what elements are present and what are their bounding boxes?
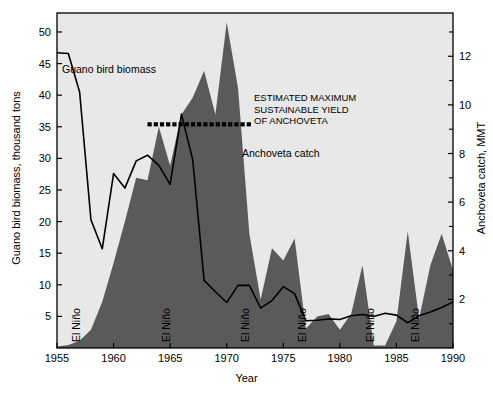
msy-reference-line — [148, 122, 251, 126]
el-nino-label: El Niño — [160, 308, 172, 342]
x-tick-label: 1965 — [158, 352, 182, 364]
y-axis-right-title: Anchoveta catch, MMT — [475, 58, 487, 298]
x-tick-label: 1960 — [101, 352, 125, 364]
el-nino-label: El Niño — [409, 308, 421, 342]
x-tick-label: 1980 — [328, 352, 352, 364]
y-right-tick-label: 10 — [459, 99, 471, 111]
y-left-tick-label: 5 — [45, 310, 51, 322]
x-tick-label: 1955 — [45, 352, 69, 364]
el-nino-label: El Niño — [296, 308, 308, 342]
msy-annotation-line3: OF ANCHOVETA — [254, 115, 356, 127]
x-axis-title: Year — [0, 372, 493, 384]
msy-annotation-line1: ESTIMATED MAXIMUM — [254, 92, 356, 104]
x-tick-label: 1990 — [441, 352, 465, 364]
chart-figure: 1955196019651970197519801985199051015202… — [0, 0, 493, 393]
y-left-tick-label: 20 — [39, 216, 51, 228]
y-left-tick-label: 35 — [39, 121, 51, 133]
x-tick-label: 1975 — [271, 352, 295, 364]
y-right-tick-label: 8 — [459, 148, 465, 160]
y-right-tick-label: 6 — [459, 196, 465, 208]
el-nino-label: El Niño — [239, 308, 251, 342]
el-nino-label: El Niño — [364, 308, 376, 342]
y-left-tick-label: 15 — [39, 247, 51, 259]
y-left-tick-label: 30 — [39, 152, 51, 164]
anchoveta-catch-annotation: Anchoveta catch — [242, 147, 320, 159]
y-left-tick-label: 10 — [39, 279, 51, 291]
msy-annotation: ESTIMATED MAXIMUM SUSTAINABLE YIELD OF A… — [254, 92, 356, 127]
y-right-tick-label: 2 — [459, 293, 465, 305]
y-left-tick-label: 40 — [39, 89, 51, 101]
msy-annotation-line2: SUSTAINABLE YIELD — [254, 104, 356, 116]
anchoveta-guano-chart: 1955196019651970197519801985199051015202… — [0, 0, 493, 393]
y-left-tick-label: 45 — [39, 58, 51, 70]
y-left-tick-label: 25 — [39, 184, 51, 196]
y-right-tick-label: 4 — [459, 245, 465, 257]
el-nino-label: El Niño — [70, 308, 82, 342]
guano-bird-biomass-annotation: Guano bird biomass — [62, 63, 156, 75]
x-tick-label: 1985 — [384, 352, 408, 364]
x-tick-label: 1970 — [214, 352, 238, 364]
y-left-tick-label: 50 — [39, 26, 51, 38]
x-axis-title-text: Year — [235, 372, 257, 384]
y-right-tick-label: 12 — [459, 50, 471, 62]
y-axis-left-title: Guano bird biomass, thousand tons — [10, 58, 22, 298]
